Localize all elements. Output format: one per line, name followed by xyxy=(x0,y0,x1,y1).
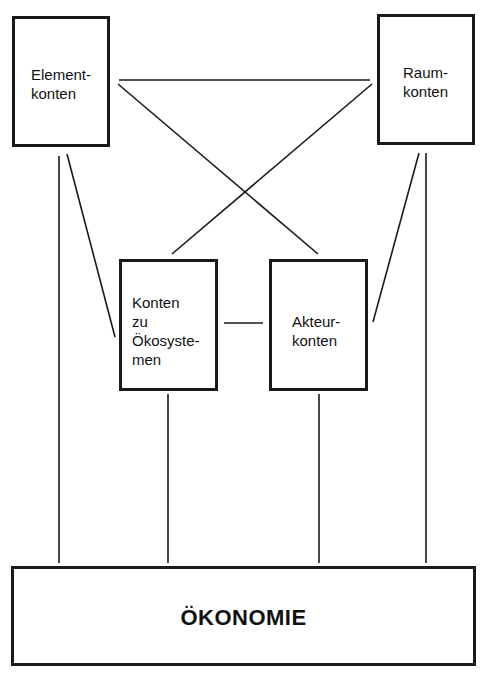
node-konten-zu-oekosystemen-label: Konten zu Ökosyste- men xyxy=(132,293,200,369)
edge-raum-akteur xyxy=(373,153,419,322)
node-oekonomie-label: ÖKONOMIE xyxy=(14,605,473,631)
node-konten-zu-oekosystemen: Konten zu Ökosyste- men xyxy=(119,259,218,391)
node-akteur-konten: Akteur- konten xyxy=(269,259,368,391)
node-akteur-konten-label: Akteur- konten xyxy=(292,312,340,350)
edge-element-oekosysteme xyxy=(67,154,115,337)
edge-element-akteur xyxy=(118,84,318,254)
node-raum-konten-label: Raum- konten xyxy=(403,63,448,101)
node-element-konten-label: Element- konten xyxy=(31,65,91,103)
node-raum-konten: Raum- konten xyxy=(377,14,475,145)
node-oekonomie: ÖKONOMIE xyxy=(11,566,476,666)
edge-raum-oekosysteme xyxy=(172,84,372,254)
node-element-konten: Element- konten xyxy=(12,16,110,147)
